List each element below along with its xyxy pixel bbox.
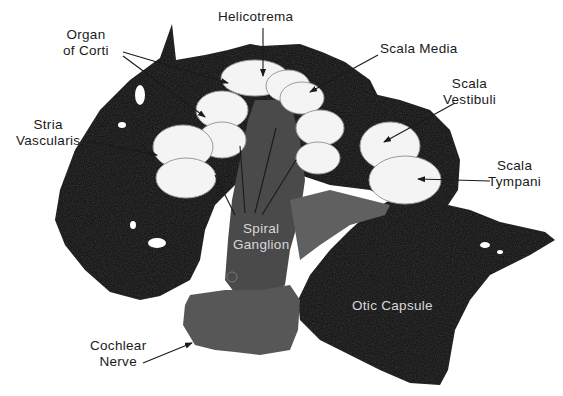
- label-helicotrema: Helicotrema: [218, 9, 293, 25]
- cochlear-nerve-arrow: [143, 343, 192, 363]
- cochlear-nerve-region: [183, 285, 300, 355]
- label-otic-capsule: Otic Capsule: [352, 298, 433, 314]
- label-organ-of-corti: Organ of Corti: [63, 27, 109, 59]
- label-scala-vestibuli: Scala Vestibuli: [443, 76, 496, 108]
- cochlea-micrograph: [0, 0, 563, 396]
- label-stria-vascularis: Stria Vascularis: [16, 117, 80, 149]
- label-scala-media: Scala Media: [380, 41, 458, 57]
- label-scala-tympani: Scala Tympani: [488, 158, 541, 190]
- label-spiral-ganglion: Spiral Ganglion: [233, 221, 289, 253]
- label-cochlear-nerve: Cochlear Nerve: [90, 338, 146, 370]
